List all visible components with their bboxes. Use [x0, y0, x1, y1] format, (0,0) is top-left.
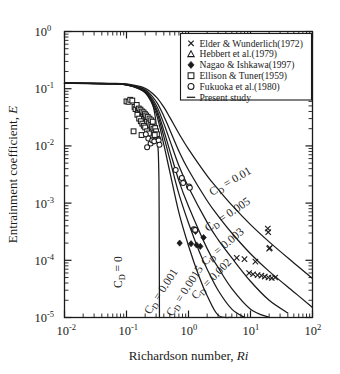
- datapoint-ellison-tuner-1959-: [131, 129, 136, 134]
- datapoint-fukuoka-et-al-1980-: [157, 142, 162, 147]
- datapoint-fukuoka-et-al-1980-: [145, 145, 150, 150]
- datapoint-ellison-tuner-1959-: [152, 133, 157, 138]
- datapoint-fukuoka-et-al-1980-: [173, 167, 178, 172]
- datapoint-ellison-tuner-1959-: [150, 119, 155, 124]
- legend-label: Present study: [200, 92, 252, 103]
- datapoint-fukuoka-et-al-1980-: [181, 180, 186, 185]
- entrainment-coefficient-chart: 10-210-110010110210010-110-210-310-410-5…: [0, 0, 340, 374]
- figure-container: 10-210-110010110210010-110-210-310-410-5…: [0, 0, 340, 374]
- y-axis-title: Entrainment coefficient, E: [5, 106, 20, 243]
- circle-marker: [188, 84, 194, 90]
- datapoint-fukuoka-et-al-1980-: [193, 227, 198, 232]
- datapoint-fukuoka-et-al-1980-: [187, 185, 192, 190]
- datapoint-fukuoka-et-al-1980-: [179, 175, 184, 180]
- legend-box: Elder & Wunderlich(1972)Hebbert et al.(1…: [181, 34, 312, 103]
- square-marker: [188, 73, 194, 79]
- x-axis-title: Richardson number, Ri: [129, 348, 249, 363]
